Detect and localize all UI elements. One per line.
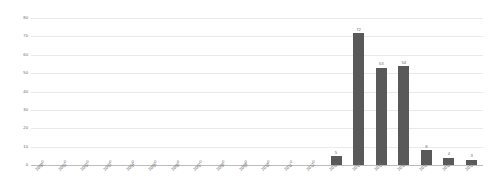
bar-slot: 0 bbox=[99, 18, 122, 165]
y-axis-tick-label: 60 bbox=[6, 53, 28, 57]
x-axis-slot: 2002 bbox=[76, 165, 99, 196]
y-axis-tick-label: 80 bbox=[6, 16, 28, 20]
x-axis-tick-label: 2007 bbox=[193, 162, 203, 172]
x-axis: 2000200120022003200420052006200720082009… bbox=[31, 165, 483, 196]
x-axis-slot: 2012 bbox=[302, 165, 325, 196]
bar: 54 bbox=[398, 66, 409, 165]
x-axis-slot: 2000 bbox=[31, 165, 54, 196]
x-axis-slot: 2008 bbox=[212, 165, 235, 196]
bar-slot: 54 bbox=[393, 18, 416, 165]
bar-slot: 0 bbox=[121, 18, 144, 165]
x-axis-slot: 2015 bbox=[370, 165, 393, 196]
bar-series: 00000000000005725354843 bbox=[31, 18, 483, 165]
bar-slot: 0 bbox=[167, 18, 190, 165]
x-axis-slot: 2011 bbox=[280, 165, 303, 196]
x-axis-tick-label: 2002 bbox=[80, 162, 90, 172]
x-axis-slot: 2006 bbox=[167, 165, 190, 196]
x-axis-slot: 2014 bbox=[347, 165, 370, 196]
bar-slot: 3 bbox=[460, 18, 483, 165]
bar-value-label: 5 bbox=[335, 151, 337, 155]
bar-value-label: 8 bbox=[425, 145, 427, 149]
bar-slot: 5 bbox=[325, 18, 348, 165]
x-axis-tick-label: 2012 bbox=[306, 162, 316, 172]
x-axis-slot: 2013 bbox=[325, 165, 348, 196]
x-axis-slot: 2003 bbox=[99, 165, 122, 196]
bar: 72 bbox=[353, 33, 364, 165]
bar-slot: 72 bbox=[347, 18, 370, 165]
y-axis-tick-label: 30 bbox=[6, 108, 28, 112]
bar-slot: 53 bbox=[370, 18, 393, 165]
y-axis: 01020304050607080 bbox=[0, 18, 28, 165]
bar-slot: 0 bbox=[31, 18, 54, 165]
plot-area: 00000000000005725354843 bbox=[31, 18, 483, 165]
x-axis-slot: 2009 bbox=[234, 165, 257, 196]
y-axis-tick-label: 10 bbox=[6, 145, 28, 149]
x-axis-slot: 2005 bbox=[144, 165, 167, 196]
bar-slot: 0 bbox=[257, 18, 280, 165]
bar-value-label: 4 bbox=[448, 152, 450, 156]
x-axis-slot: 2001 bbox=[54, 165, 77, 196]
bar-slot: 0 bbox=[189, 18, 212, 165]
x-axis-tick-label: 2011 bbox=[284, 163, 293, 172]
bar-slot: 4 bbox=[438, 18, 461, 165]
y-axis-tick-label: 20 bbox=[6, 126, 28, 130]
bar-value-label: 3 bbox=[470, 154, 472, 158]
bar-slot: 0 bbox=[234, 18, 257, 165]
bar-slot: 0 bbox=[144, 18, 167, 165]
bar-slot: 8 bbox=[415, 18, 438, 165]
y-axis-tick-label: 0 bbox=[6, 163, 28, 167]
x-axis-slot: 2018 bbox=[438, 165, 461, 196]
bar-slot: 0 bbox=[302, 18, 325, 165]
bar-value-label: 54 bbox=[401, 61, 406, 65]
bar-slot: 0 bbox=[280, 18, 303, 165]
x-axis-slot: 2017 bbox=[415, 165, 438, 196]
y-axis-tick-label: 50 bbox=[6, 71, 28, 75]
bar-slot: 0 bbox=[76, 18, 99, 165]
x-axis-tick-label: 2017 bbox=[419, 162, 429, 172]
y-axis-tick-label: 70 bbox=[6, 34, 28, 38]
y-axis-tick-label: 40 bbox=[6, 90, 28, 94]
bar-chart: 01020304050607080 0000000000000572535484… bbox=[0, 0, 491, 196]
bar-slot: 0 bbox=[212, 18, 235, 165]
bar-slot: 0 bbox=[54, 18, 77, 165]
x-axis-slot: 2004 bbox=[121, 165, 144, 196]
x-axis-slot: 2010 bbox=[257, 165, 280, 196]
bar: 53 bbox=[376, 68, 387, 165]
x-axis-slot: 2007 bbox=[189, 165, 212, 196]
bar-value-label: 72 bbox=[356, 28, 361, 32]
x-axis-slot: 2016 bbox=[393, 165, 416, 196]
x-axis-slot: 2019 bbox=[460, 165, 483, 196]
bar-value-label: 53 bbox=[379, 62, 384, 66]
